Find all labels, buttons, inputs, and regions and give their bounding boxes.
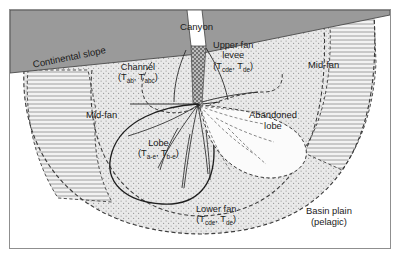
- submarine-fan-diagram-svg: [10, 10, 390, 248]
- diagram-frame: Canyon Continental slope Channel (Tab, T…: [9, 9, 391, 249]
- figure-root: Canyon Continental slope Channel (Tab, T…: [0, 0, 402, 260]
